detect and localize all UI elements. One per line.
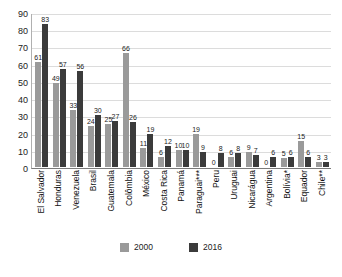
bar-group: 08	[208, 14, 226, 167]
bar-value-label: 8	[219, 145, 223, 152]
x-axis-label-cell: Bolívia*	[278, 170, 296, 232]
bar-group: 2527	[103, 14, 121, 167]
x-axis-tick-label: Chile**	[318, 170, 327, 196]
x-axis-tick-label: Venezuela	[72, 170, 81, 210]
bar-value-label: 30	[94, 107, 102, 114]
x-axis-tick-label: Guatemala	[107, 170, 116, 212]
bar-value-label: 27	[111, 113, 119, 120]
bar-group: 06	[261, 14, 279, 167]
x-axis-label-cell: Honduras	[50, 170, 68, 232]
y-axis-tick-label: 40	[18, 96, 28, 105]
bar-value-label: 6	[289, 149, 293, 156]
bar: 6	[228, 157, 234, 167]
x-axis-label-cell: Venezuela	[67, 170, 85, 232]
bar: 19	[147, 134, 153, 167]
bar-value-label: 11	[140, 140, 147, 147]
bar: 57	[60, 69, 66, 167]
x-axis-label-cell: Brasil	[85, 170, 103, 232]
bar-groups: 6183495733562430252766261119612101019908…	[33, 14, 331, 167]
bar-group: 156	[296, 14, 314, 167]
x-axis-tick-label: Uruguai	[230, 170, 239, 200]
bar-value-label: 8	[236, 145, 240, 152]
x-axis-tick-label: Nicarágua	[248, 170, 257, 209]
bar-value-label: 12	[164, 138, 172, 145]
bar-value-label: 19	[147, 126, 155, 133]
bar: 8	[235, 153, 241, 167]
bar-value-label: 6	[159, 149, 163, 156]
bar-value-label: 49	[52, 75, 60, 82]
bar-group: 1119	[138, 14, 156, 167]
x-axis-tick-label: Panamá	[177, 170, 186, 202]
bar-group: 56	[278, 14, 296, 167]
bar-group: 1010	[173, 14, 191, 167]
bar: 10	[176, 150, 182, 167]
bar: 24	[88, 126, 94, 167]
bar: 3	[316, 162, 322, 167]
bar-group: 68	[226, 14, 244, 167]
bar: 6	[288, 157, 294, 167]
bar-chart: 0102030405060708090 61834957335624302527…	[0, 0, 342, 277]
bar-value-label: 7	[254, 147, 258, 154]
bar: 66	[123, 53, 129, 167]
bar: 83	[42, 24, 48, 167]
bar: 9	[246, 152, 252, 168]
bar-value-label: 6	[229, 149, 233, 156]
bar-value-label: 5	[282, 150, 286, 157]
x-axis-tick-label: Colômbia	[125, 170, 134, 206]
x-axis-label-cell: Panamá	[173, 170, 191, 232]
x-axis-label-cell: México	[138, 170, 156, 232]
x-axis-label-cell: Chile**	[314, 170, 332, 232]
bar: 30	[95, 115, 101, 167]
bar: 25	[105, 124, 111, 167]
legend-label: 2016	[203, 243, 222, 252]
x-axis-tick-label: Paraguai***	[195, 170, 204, 214]
legend-item[interactable]: 2016	[189, 243, 222, 252]
bar-value-label: 24	[87, 118, 95, 125]
x-axis-label-cell: Peru	[208, 170, 226, 232]
bar-value-label: 83	[41, 16, 49, 23]
bar: 27	[112, 121, 118, 168]
bar: 26	[130, 122, 136, 167]
legend-item[interactable]: 2000	[120, 243, 153, 252]
bar-value-label: 19	[192, 126, 200, 133]
x-axis-tick-label: Costa Rica	[160, 170, 169, 212]
y-axis-tick-label: 90	[18, 10, 28, 19]
bar: 6	[158, 157, 164, 167]
bar: 33	[70, 110, 76, 167]
y-axis-tick-label: 20	[18, 130, 28, 139]
bar-value-label: 6	[306, 149, 310, 156]
x-axis-label-cell: El Salvador	[32, 170, 50, 232]
bar: 9	[200, 152, 206, 168]
bar-group: 199	[191, 14, 209, 167]
bar-value-label: 66	[122, 45, 130, 52]
bar-value-label: 10	[182, 142, 190, 149]
x-axis-tick-label: Honduras	[54, 170, 63, 207]
y-axis-tick-label: 0	[23, 165, 28, 174]
bar-value-label: 6	[271, 149, 275, 156]
bar: 15	[298, 141, 304, 167]
x-axis-tick-label: Brasil	[89, 170, 98, 191]
y-axis-tick-label: 50	[18, 78, 28, 87]
plot-frame: 0102030405060708090 61834957335624302527…	[31, 14, 331, 169]
bar: 19	[193, 134, 199, 167]
x-axis-label-cell: Argentina	[261, 170, 279, 232]
bar-value-label: 56	[76, 63, 84, 70]
bar-group: 612	[156, 14, 174, 167]
y-axis-tick-label: 10	[18, 147, 28, 156]
bar-value-label: 9	[247, 144, 251, 151]
x-axis-tick-label: Argentina	[265, 170, 274, 206]
bar: 10	[183, 150, 189, 167]
bar: 6	[305, 157, 311, 167]
legend-swatch-icon	[189, 243, 198, 252]
bar-value-label: 0	[264, 159, 268, 166]
y-axis-tick-label: 30	[18, 113, 28, 122]
bar: 8	[218, 153, 224, 167]
y-axis-tick-label: 80	[18, 27, 28, 36]
x-axis-tick-label: México	[142, 170, 151, 197]
x-axis-label-cell: Nicarágua	[243, 170, 261, 232]
bar-group: 4957	[51, 14, 69, 167]
bar: 49	[53, 83, 59, 167]
x-axis-label-cell: Costa Rica	[155, 170, 173, 232]
bar-value-label: 61	[34, 54, 42, 61]
x-axis-labels: El SalvadorHondurasVenezuelaBrasilGuatem…	[32, 170, 331, 232]
